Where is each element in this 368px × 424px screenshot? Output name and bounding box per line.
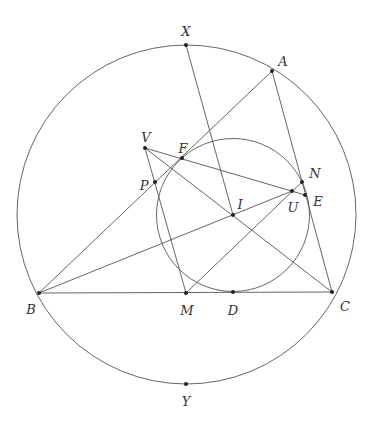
geometry-diagram: XAVFPNUEIBMDCY: [0, 0, 368, 424]
point-C: [330, 290, 334, 294]
point-E: [303, 193, 307, 197]
circumcircle: [17, 45, 356, 384]
label-X: X: [180, 24, 191, 39]
circles-layer: [17, 45, 356, 384]
label-Y: Y: [182, 394, 192, 409]
point-P: [153, 180, 157, 184]
labels-layer: XAVFPNUEIBMDCY: [25, 24, 350, 409]
point-D: [231, 290, 235, 294]
point-I: [231, 213, 235, 217]
point-A: [270, 69, 274, 73]
label-C: C: [340, 299, 350, 314]
points-layer: [37, 43, 334, 386]
segment-XI: [186, 45, 233, 215]
label-A: A: [277, 54, 287, 69]
label-V: V: [141, 130, 152, 145]
label-P: P: [139, 178, 149, 193]
label-M: M: [179, 303, 194, 318]
label-I: I: [236, 197, 243, 212]
segment-MN: [186, 182, 302, 293]
point-Y: [184, 382, 188, 386]
label-D: D: [227, 303, 239, 318]
label-U: U: [288, 200, 300, 215]
segment-BU: [39, 191, 292, 293]
point-X: [184, 43, 188, 47]
label-F: F: [177, 141, 188, 156]
point-F: [180, 156, 184, 160]
label-N: N: [308, 166, 321, 181]
segment-VC: [145, 148, 332, 292]
segments-layer: [39, 45, 332, 293]
point-U: [290, 189, 294, 193]
point-N: [300, 180, 304, 184]
label-B: B: [25, 302, 36, 317]
label-E: E: [312, 194, 323, 209]
point-M: [184, 291, 188, 295]
segment-VM: [145, 148, 186, 293]
point-B: [37, 291, 41, 295]
point-V: [143, 146, 147, 150]
